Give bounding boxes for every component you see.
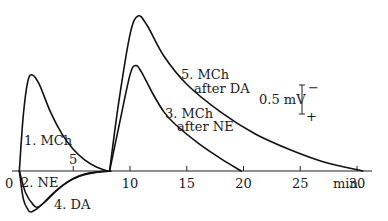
- response-chart: 51015202530 0 min. 1. MCh 2. NE 4. DA 3.…: [0, 0, 388, 221]
- x-tick-label: 15: [178, 176, 195, 191]
- x-tick-label: 20: [235, 176, 252, 191]
- curve5-label-line1: 5. MCh: [181, 67, 230, 82]
- x-tick-label: 10: [122, 176, 139, 191]
- curve-1: [19, 75, 107, 171]
- scale-bar: 0.5 mV − +: [259, 80, 319, 124]
- scale-bar-positive-sign: +: [306, 109, 317, 124]
- scale-bar-label: 0.5 mV: [259, 92, 306, 107]
- x-unit-label: min.: [333, 176, 362, 191]
- scale-bar-negative-sign: −: [308, 80, 319, 95]
- x-tick-label: 25: [292, 176, 309, 191]
- curve5-label-line2: after DA: [194, 81, 250, 96]
- curve4-label: 4. DA: [54, 197, 91, 212]
- x-tick-label: 5: [69, 152, 77, 167]
- curve1-label: 1. MCh: [24, 133, 73, 148]
- curve2-label: 2. NE: [21, 175, 58, 190]
- curve3-label-line2: after NE: [177, 119, 234, 134]
- origin-label: 0: [5, 176, 13, 191]
